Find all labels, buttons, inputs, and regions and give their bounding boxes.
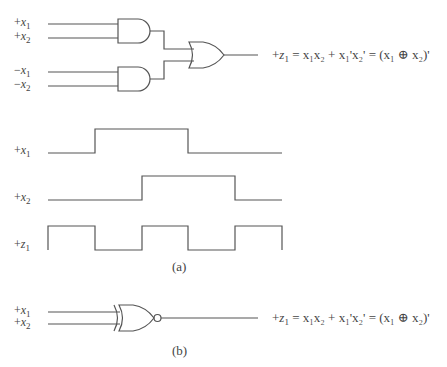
and-gate-1	[118, 19, 150, 43]
equation-a: +z1 = x₁x₂ + x₁'x₂' = (x₁ ⊕ x₂)'	[272, 47, 430, 64]
caption-b: (b)	[172, 343, 187, 359]
caption-a: (a)	[172, 259, 186, 275]
wire-and1-to-or	[150, 31, 194, 49]
waveform-label-x1: +x1	[14, 143, 31, 159]
waveform-x2	[48, 176, 282, 200]
label-minus-x2: −x2	[14, 77, 31, 93]
wire-and2-to-or	[150, 61, 194, 79]
waveform-label-z1: +z1	[14, 237, 30, 253]
xnor-bubble	[154, 315, 161, 322]
or-gate	[189, 42, 224, 68]
waveform-label-x2: +x2	[14, 190, 31, 206]
label-plus-x2: +x2	[14, 29, 31, 45]
xnor-gate	[119, 305, 154, 331]
and-gate-2	[118, 67, 150, 91]
equation-b: +z1 = x₁x₂ + x₁'x₂' = (x₁ ⊕ x₂)'	[272, 310, 430, 327]
waveform-x1	[48, 129, 282, 153]
waveform-z1	[48, 226, 282, 250]
label-b-plus-x2: +x2	[14, 315, 31, 331]
xnor-extra-arc	[114, 305, 118, 331]
